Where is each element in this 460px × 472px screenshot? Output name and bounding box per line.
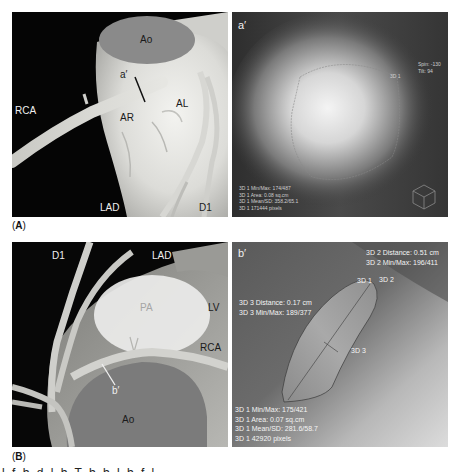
min-max-3d3: 3D 3 Min/Max: 189/377 [239,308,312,318]
spin-readout: Spin: -130 [418,61,441,68]
roi-stats: 3D 1 Min/Max: 175/421 3D 1 Area: 0.07 sq… [235,405,318,443]
panel-b-prime-cross-section: b′ 3D 2 Distance: 0.51 cm 3D 2 Min/Max: … [232,242,448,447]
label-d1: D1 [199,202,212,213]
distance-3d2: 3D 2 Distance: 0.51 cm [366,248,439,258]
stat-min-max: 3D 1 Min/Max: 174/487 [239,185,298,192]
figure-label-a: (A) [12,220,26,231]
orientation-readout: Spin: -130 Tilt: 94 [418,61,441,74]
corner-label-b-prime: b′ [238,247,246,259]
roi-stats: 3D 1 Min/Max: 174/487 3D 1 Area: 0.08 sq… [239,185,298,211]
label-lv: LV [208,302,220,313]
label-pa: PA [140,302,153,313]
heart-render-b [12,242,228,447]
roi-label-3d1: 3D 1 [357,276,372,286]
pulmonary-artery [94,275,210,355]
label-lad: LAD [100,202,119,213]
distance-3d3: 3D 3 Distance: 0.17 cm [239,298,312,308]
label-b-prime: b′ [112,385,119,396]
roi-label-3d2: 3D 2 [379,275,394,285]
stat-mean-sd: 3D 1 Mean/SD: 281.6/58.7 [235,424,318,434]
stat-min-max: 3D 1 Min/Max: 175/421 [235,405,318,415]
panel-b-3d-render: D1 LAD PA LV RCA b′ Ao [12,242,228,447]
label-ar: AR [120,112,134,123]
distance-3d2-readout: 3D 2 Distance: 0.51 cm 3D 2 Min/Max: 196… [366,248,439,267]
label-al: AL [176,98,188,109]
stat-pixels: 3D 1 171444 pixels [239,205,298,212]
figure-label-b: (B) [12,451,26,462]
min-max-3d2: 3D 2 Min/Max: 196/411 [366,258,439,268]
corner-label-a-prime: a′ [238,19,246,31]
stat-area: 3D 1 Area: 0.07 sq.cm [235,415,318,425]
caption-fragment: l f b d l b T b b l b f l [0,466,460,472]
label-ao: Ao [140,34,152,45]
label-rca: RCA [15,105,36,116]
label-rca: RCA [200,342,221,353]
tilt-readout: Tilt: 94 [418,68,441,75]
label-ao: Ao [122,414,134,425]
roi-label-3d1: 3D 1 [390,73,401,80]
stat-pixels: 3D 1 42920 pixels [235,434,318,444]
label-d1: D1 [52,250,65,261]
panel-a-3d-render: Ao a′ RCA AR AL LAD D1 [12,12,228,217]
roi-label-3d3: 3D 3 [351,346,366,356]
stat-mean-sd: 3D 1 Mean/SD: 358.2/65.1 [239,198,298,205]
distance-3d3-readout: 3D 3 Distance: 0.17 cm 3D 3 Min/Max: 189… [239,298,312,317]
label-lad: LAD [152,250,171,261]
panel-a-prime-cross-section: a′ 3D 1 Spin: -130 Tilt: 94 3D 1 Min/Max… [232,12,448,217]
label-a-prime: a′ [120,69,127,80]
